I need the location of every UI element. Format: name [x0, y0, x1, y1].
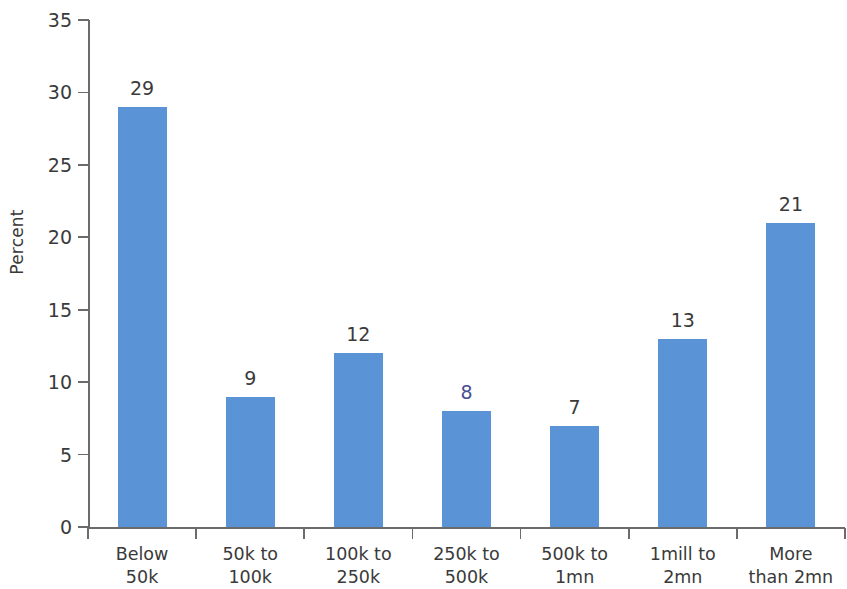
bar — [118, 107, 167, 527]
x-axis-tick — [87, 528, 89, 539]
bar — [550, 426, 599, 527]
x-axis-tick — [844, 528, 846, 539]
x-axis-tick — [736, 528, 738, 539]
y-axis-tick — [78, 19, 89, 21]
x-axis-line — [88, 527, 845, 529]
x-axis-tick — [520, 528, 522, 539]
y-axis-tick — [78, 309, 89, 311]
x-axis-category-label: 1mill to 2mn — [629, 543, 737, 589]
bar-value-label: 12 — [318, 323, 398, 345]
y-axis-tick-label: 15 — [32, 299, 72, 321]
bar — [658, 339, 707, 527]
y-axis-tick-label: 5 — [32, 444, 72, 466]
y-axis-tick — [78, 92, 89, 94]
y-axis-tick — [78, 236, 89, 238]
x-axis-category-label: 100k to 250k — [304, 543, 412, 589]
bar — [226, 397, 275, 527]
bar — [766, 223, 815, 527]
bar-value-label: 7 — [535, 396, 615, 418]
y-axis-tick — [78, 381, 89, 383]
y-axis-tick-label: 0 — [32, 516, 72, 538]
x-axis-category-label: More than 2mn — [737, 543, 845, 589]
x-axis-tick — [628, 528, 630, 539]
y-axis-tick — [78, 454, 89, 456]
y-axis-tick — [78, 164, 89, 166]
y-axis-tick-label: 10 — [32, 371, 72, 393]
x-axis-tick — [303, 528, 305, 539]
y-axis-tick-label: 30 — [32, 81, 72, 103]
bar-value-label: 9 — [210, 367, 290, 389]
x-axis-category-label: 250k to 500k — [412, 543, 520, 589]
bar — [334, 353, 383, 527]
y-axis-tick-label: 35 — [32, 9, 72, 31]
y-axis-line — [88, 20, 90, 528]
bar-value-label: 29 — [102, 77, 182, 99]
x-axis-category-label: 50k to 100k — [196, 543, 304, 589]
x-axis-tick — [412, 528, 414, 539]
x-axis-category-label: Below 50k — [88, 543, 196, 589]
x-axis-tick — [195, 528, 197, 539]
bar-value-label: 13 — [643, 309, 723, 331]
x-axis-category-label: 500k to 1mn — [521, 543, 629, 589]
bar-chart: Percent 05101520253035 29912871321 Below… — [0, 0, 847, 589]
bar — [442, 411, 491, 527]
bar-value-label: 21 — [751, 193, 831, 215]
y-axis-tick-label: 20 — [32, 226, 72, 248]
bar-value-label: 8 — [427, 381, 507, 403]
y-axis-tick-label: 25 — [32, 154, 72, 176]
y-axis-title: Percent — [7, 197, 27, 287]
